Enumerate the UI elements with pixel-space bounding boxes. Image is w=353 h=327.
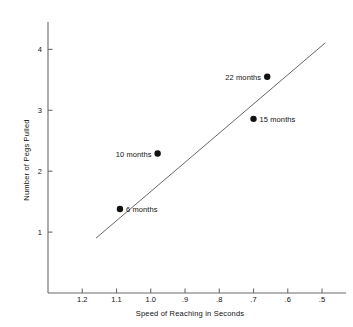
data-point-marker bbox=[117, 206, 123, 212]
x-tick-label: 1.0 bbox=[145, 295, 156, 304]
data-point-label: 6 months bbox=[126, 204, 158, 213]
y-axis-title: Number of Pegs Pulled bbox=[22, 119, 31, 200]
x-tick-label: .6 bbox=[285, 295, 291, 304]
data-point-markers bbox=[117, 74, 271, 213]
y-tick-label: 3 bbox=[32, 106, 42, 115]
x-tick-label: .5 bbox=[319, 295, 325, 304]
data-point-marker bbox=[264, 74, 270, 80]
data-point-marker bbox=[154, 150, 160, 156]
x-tick-label: .9 bbox=[182, 295, 188, 304]
data-point-marker bbox=[250, 116, 256, 122]
scatter-plot-canvas bbox=[0, 0, 353, 327]
x-axis-ticks bbox=[82, 289, 322, 294]
data-point-label: 15 months bbox=[260, 114, 296, 123]
x-axis-title: Speed of Reaching in Seconds bbox=[136, 309, 245, 318]
y-tick-label: 4 bbox=[32, 45, 42, 54]
y-tick-label: 2 bbox=[32, 167, 42, 176]
y-tick-label: 1 bbox=[32, 228, 42, 237]
data-point-label: 10 months bbox=[116, 149, 152, 158]
y-axis-ticks bbox=[48, 49, 53, 232]
data-point-label: 22 months bbox=[225, 72, 261, 81]
x-tick-label: .8 bbox=[216, 295, 222, 304]
x-tick-label: 1.1 bbox=[111, 295, 122, 304]
x-tick-label: .7 bbox=[250, 295, 256, 304]
chart-figure: 1.21.11.0.9.8.7.6.51234 6 months10 month… bbox=[0, 0, 353, 327]
x-tick-label: 1.2 bbox=[77, 295, 88, 304]
